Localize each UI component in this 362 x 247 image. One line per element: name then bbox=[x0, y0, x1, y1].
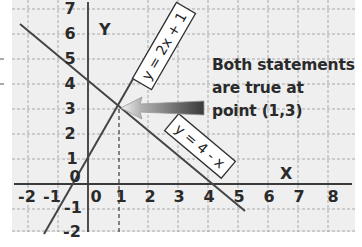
svg-text:6: 6 bbox=[64, 24, 75, 43]
svg-text:6: 6 bbox=[263, 187, 274, 206]
svg-text:-1: -1 bbox=[43, 187, 61, 206]
svg-text:-1: -1 bbox=[64, 198, 82, 217]
svg-text:4: 4 bbox=[203, 187, 214, 206]
svg-text:2: 2 bbox=[64, 124, 75, 143]
svg-text:-2: -2 bbox=[18, 187, 36, 206]
svg-text:5: 5 bbox=[64, 49, 75, 68]
annotation-note: Both statements are true at point (1,3) bbox=[212, 54, 362, 123]
note-line-2: are true at bbox=[212, 77, 362, 100]
svg-text:1: 1 bbox=[115, 187, 126, 206]
note-line-3: point (1,3) bbox=[212, 100, 362, 123]
svg-text:-2: -2 bbox=[63, 222, 81, 241]
svg-text:8: 8 bbox=[327, 187, 338, 206]
svg-text:1: 1 bbox=[66, 149, 77, 168]
svg-text:2: 2 bbox=[144, 187, 155, 206]
svg-text:0: 0 bbox=[69, 167, 80, 186]
svg-text:7: 7 bbox=[293, 187, 304, 206]
svg-text:4: 4 bbox=[64, 74, 75, 93]
svg-text:7: 7 bbox=[64, 0, 75, 18]
x-axis-label: X bbox=[280, 164, 293, 183]
y-axis-label: Y bbox=[98, 20, 111, 39]
svg-text:3: 3 bbox=[173, 187, 184, 206]
chart: y = 2x + 1 y = 4 - x 7 6 5 4 3 2 1 0 -1 … bbox=[0, 0, 362, 247]
svg-text:5: 5 bbox=[233, 187, 244, 206]
svg-text:0: 0 bbox=[90, 187, 101, 206]
svg-text:3: 3 bbox=[64, 99, 75, 118]
note-line-1: Both statements bbox=[212, 54, 362, 77]
